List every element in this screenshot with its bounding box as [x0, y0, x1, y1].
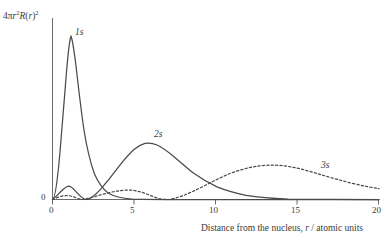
x-label-prefix: Distance from the nucleus,: [201, 223, 305, 233]
curve-2s: [53, 143, 380, 199]
x-tick-label-15: 15: [291, 206, 300, 215]
curve-label-2s: 2s: [154, 130, 162, 140]
y-axis-label: 4πr2R(r)2: [3, 10, 39, 22]
axes-group: [53, 18, 380, 200]
x-tick-label-10: 10: [209, 206, 218, 215]
curve-1s: [53, 36, 380, 200]
curve-3s: [53, 165, 380, 199]
y-label-R-exponent: 2: [35, 9, 38, 16]
curve-label-1s: 1s: [75, 28, 83, 38]
radial-distribution-chart: 4πr2R(r)2 Distance from the nucleus, r /…: [0, 0, 387, 245]
plot-area: [0, 0, 387, 245]
curve-label-3s: 3s: [321, 161, 329, 171]
x-tick-marks: [53, 200, 379, 205]
x-tick-label-5: 5: [130, 206, 135, 215]
y-axis-zero-label: 0: [41, 193, 46, 202]
x-label-suffix: / atomic units: [309, 223, 363, 233]
x-tick-label-0: 0: [49, 206, 54, 215]
x-axis-label: Distance from the nucleus, r / atomic un…: [201, 224, 363, 234]
x-tick-label-20: 20: [372, 206, 381, 215]
